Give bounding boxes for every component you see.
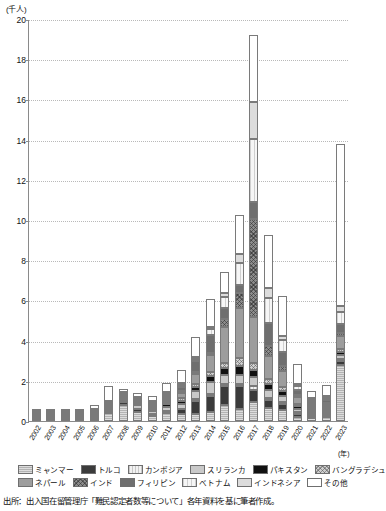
legend-item-indonesia[interactable]: インドネシア [237,477,300,488]
x-axis-tick-label: 2023 [333,424,349,442]
bar-segment-myanmar [32,419,41,421]
bar-slot [145,20,160,421]
legend-item-vietnam[interactable]: ベトナム [182,477,230,488]
stacked-bar[interactable] [104,386,113,421]
x-label-slot: 2012 [173,424,188,458]
bar-slot [102,20,117,421]
x-label-slot: 2018 [261,424,276,458]
x-axis-tick-label: 2020 [289,424,305,442]
bar-segment-pakistan [220,368,229,375]
legend-item-myanmar[interactable]: ミャンマー [18,464,74,475]
stacked-bar[interactable] [61,412,70,421]
legend-item-cambodia[interactable]: カンボジア [128,464,184,475]
x-label-slot: 2006 [86,424,101,458]
bar-segment-philippines [220,308,229,319]
stacked-bar[interactable] [307,391,316,421]
bar-segment-turkey [264,400,273,408]
stacked-bar[interactable] [32,416,41,421]
x-axis-tick-label: 2010 [144,424,160,442]
stacked-bar[interactable] [264,235,273,421]
stacked-bar[interactable] [322,385,331,421]
x-label-slot: 2011 [159,424,174,458]
stacked-bar[interactable] [220,272,229,421]
bar-slot [160,20,175,421]
bar-segment-nepal [206,355,215,372]
x-axis-tick-label: 2009 [129,424,145,442]
x-label-slot: 2003 [43,424,58,458]
x-label-slot: 2010 [144,424,159,458]
stacked-bar[interactable] [46,414,55,421]
bar-slot [73,20,88,421]
legend-label: フィリピン [137,477,176,488]
bar-segment-india [220,319,229,327]
bar-segment-other [293,364,302,384]
bar-segment-vietnam [220,297,229,308]
bar-segment-myanmar [235,409,244,421]
stacked-bar[interactable] [119,389,128,421]
stacked-bar[interactable] [206,299,215,421]
bar-segment-nepal [220,327,229,362]
stacked-bar[interactable] [90,405,99,421]
bar-segment-myanmar [249,402,258,421]
bar-segment-nepal [336,336,345,349]
stacked-bar[interactable] [177,370,186,421]
legend-label: パキスタン [270,464,309,475]
bar-segment-nepal [278,371,287,387]
stacked-bar[interactable] [278,296,287,421]
x-label-slot: 2019 [275,424,290,458]
bar-segment-other [104,386,113,400]
stacked-bar[interactable] [235,215,244,421]
legend-item-philippines[interactable]: フィリピン [120,477,176,488]
legend-label: トルコ [98,464,121,475]
y-axis-tick-label: 20 [17,15,26,25]
bar-segment-vietnam [235,263,244,285]
legend-swatch-nepal [18,478,33,487]
x-axis-tick-label: 2011 [159,424,174,441]
stacked-bar[interactable] [133,393,142,421]
x-axis-tick-label: 2005 [71,424,87,442]
bar-segment-other [336,144,345,306]
x-label-slot: 2014 [203,424,218,458]
stacked-bar[interactable] [336,144,345,421]
legend-item-srilanka[interactable]: スリランカ [190,464,246,475]
bar-segment-vietnam [336,312,345,324]
bar-slot [174,20,189,421]
legend-item-other[interactable]: その他 [307,477,347,488]
bar-segment-turkey [249,390,258,402]
bar-slot [247,20,262,421]
bar-slot [116,20,131,421]
y-axis-tick-label: 18 [17,55,26,65]
bar-segment-myanmar [264,408,273,421]
legend-item-pakistan[interactable]: パキスタン [253,464,309,475]
stacked-bar[interactable] [293,364,302,421]
stacked-bar[interactable] [249,35,258,421]
x-axis-tick-label: 2008 [115,424,131,442]
x-label-slot: 2013 [188,424,203,458]
bar-segment-philippines [264,323,273,346]
bar-segment-myanmar [133,412,142,421]
bar-series-container [29,20,348,421]
legend-item-bangladesh[interactable]: バングラデシュ [315,464,386,475]
legend-item-nepal[interactable]: ネパール [18,477,66,488]
stacked-bar[interactable] [148,396,157,421]
x-axis-tick-label: 2006 [86,424,102,442]
x-label-slot: 2007 [101,424,116,458]
legend-item-india[interactable]: インド [73,477,113,488]
bar-segment-turkey [235,386,244,409]
stacked-bar[interactable] [162,383,171,421]
bar-slot [87,20,102,421]
bar-segment-myanmar [293,417,302,421]
bar-segment-indonesia [264,288,273,298]
bar-segment-nepal [293,397,302,404]
stacked-bar[interactable] [75,413,84,421]
x-label-slot: 2020 [290,424,305,458]
legend-item-turkey[interactable]: トルコ [81,464,121,475]
bar-segment-myanmar [336,365,345,421]
stacked-bar[interactable] [191,337,200,421]
bar-slot [232,20,247,421]
x-axis-tick-label: 2012 [173,424,189,442]
bar-segment-philippines [206,335,215,353]
bar-segment-myanmar [119,405,128,421]
bar-segment-indonesia [249,102,258,139]
x-label-slot: 2004 [57,424,72,458]
